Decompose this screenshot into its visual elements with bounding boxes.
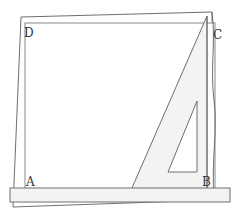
geometry-diagram: D C A B — [0, 0, 239, 221]
label-b: B — [202, 175, 211, 189]
label-d: D — [24, 26, 34, 40]
ruler — [10, 188, 230, 202]
label-a: A — [25, 175, 35, 189]
label-c: C — [213, 28, 222, 42]
